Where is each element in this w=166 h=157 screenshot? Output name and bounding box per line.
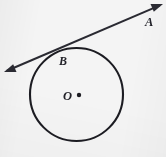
label-point-a: A: [145, 16, 153, 29]
label-point-o: O: [63, 90, 72, 103]
tangent-line: [7, 5, 160, 70]
arrowhead-right-icon: [151, 4, 163, 12]
label-point-b: B: [59, 55, 67, 67]
arrowhead-left-icon: [4, 64, 16, 72]
geometry-figure: A B O: [0, 0, 166, 157]
figure-canvas: [0, 0, 166, 157]
circle-shape: [30, 48, 123, 141]
tangent-line-group: [4, 4, 163, 72]
circle-center-dot: [77, 93, 81, 97]
